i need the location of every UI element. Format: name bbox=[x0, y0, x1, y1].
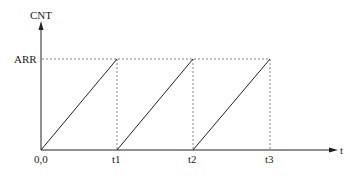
x-axis-arrow-icon bbox=[329, 148, 338, 153]
origin-label: 0,0 bbox=[34, 154, 48, 165]
tick-t3: t3 bbox=[265, 154, 274, 165]
arr-label: ARR bbox=[14, 54, 37, 65]
ramp-2 bbox=[117, 59, 193, 150]
x-axis-label: t bbox=[340, 145, 343, 156]
ramp-1 bbox=[41, 59, 117, 150]
ramp-3 bbox=[193, 59, 270, 150]
y-axis-arrow-icon bbox=[39, 21, 44, 30]
tick-t2: t2 bbox=[188, 154, 197, 165]
sawtooth-diagram bbox=[0, 0, 350, 176]
y-axis-label: CNT bbox=[30, 10, 52, 21]
tick-t1: t1 bbox=[112, 154, 121, 165]
